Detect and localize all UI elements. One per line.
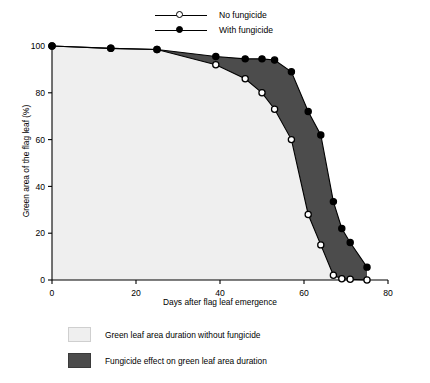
data-point-marker [305,211,311,217]
data-point-marker [339,225,345,231]
light-swatch-icon [68,327,91,342]
area-legend-item-without-fungicide: Green leaf area duration without fungici… [68,327,267,342]
data-point-marker [288,137,294,143]
y-tick-label: 80 [35,88,45,98]
data-point-marker [213,53,219,59]
data-point-marker [347,276,353,282]
data-point-marker [213,62,219,68]
y-tick-label: 60 [35,135,45,145]
data-point-marker [318,242,324,248]
data-point-marker [259,90,265,96]
y-tick-label: 0 [40,275,45,285]
data-point-marker [272,57,278,63]
data-point-marker [347,239,353,245]
data-point-marker [259,56,265,62]
data-point-marker [242,56,248,62]
x-axis-title: Days after flag leaf emergence [52,297,388,307]
y-tick-label: 100 [31,41,46,51]
dark-swatch-icon [68,353,91,368]
area-legend-label-fungicide-effect: Fungicide effect on green leaf area dura… [91,356,267,366]
data-point-marker [272,106,278,112]
area-legend-label-without-fungicide: Green leaf area duration without fungici… [91,330,261,340]
plot-area: 020406080100020406080 [0,0,430,300]
y-tick-label: 20 [35,228,45,238]
chart-figure: No fungicide With fungicide 020406080100… [0,0,430,383]
data-point-marker [49,43,55,49]
data-point-marker [330,272,336,278]
data-point-marker [364,264,370,270]
data-point-marker [330,199,336,205]
data-point-marker [154,46,160,52]
data-point-marker [339,276,345,282]
data-point-marker [305,108,311,114]
data-point-marker [242,76,248,82]
data-point-marker [288,69,294,75]
data-point-marker [108,45,114,51]
area-legend-item-fungicide-effect: Fungicide effect on green leaf area dura… [68,353,267,368]
y-tick-label: 40 [35,182,45,192]
y-axis-title: Green area of the flag leaf (%) [21,56,31,266]
data-point-marker [318,132,324,138]
area-legend: Green leaf area duration without fungici… [68,327,267,379]
data-point-marker [364,277,370,283]
